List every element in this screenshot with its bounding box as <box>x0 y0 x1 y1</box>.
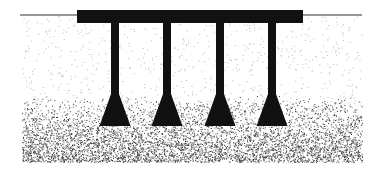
pile-4 <box>257 23 288 126</box>
diagram-svg <box>0 0 382 172</box>
pile-foundation-diagram <box>0 0 382 172</box>
soil-stipple <box>22 16 363 163</box>
pile-2 <box>152 23 183 126</box>
pile-3 <box>205 23 236 126</box>
pile-1 <box>100 23 131 126</box>
pile-cap <box>77 10 303 23</box>
piles-group <box>100 23 288 126</box>
